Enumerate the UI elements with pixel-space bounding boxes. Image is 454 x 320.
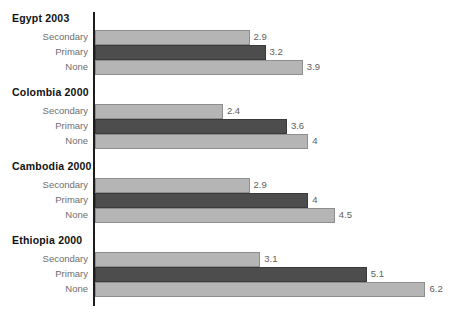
bar-category-label: Secondary	[0, 253, 88, 264]
bar-category-label: None	[0, 61, 88, 72]
bar-category-label: Primary	[0, 194, 88, 205]
bar-row: Secondary2.4	[0, 104, 454, 119]
bar-row: Primary5.1	[0, 267, 454, 282]
bar-row: None4.5	[0, 208, 454, 223]
bar	[95, 60, 303, 75]
bar-value-label: 4	[312, 194, 317, 205]
bar-category-label: Secondary	[0, 105, 88, 116]
bar	[95, 267, 367, 282]
bar-category-label: Secondary	[0, 31, 88, 42]
bar-row: Primary3.6	[0, 119, 454, 134]
bar-category-label: None	[0, 135, 88, 146]
bar-row: Secondary2.9	[0, 178, 454, 193]
bar-row: None3.9	[0, 60, 454, 75]
bar-category-label: None	[0, 209, 88, 220]
bar-group-title: Colombia 2000	[12, 86, 89, 98]
bar-value-label: 4.5	[339, 209, 352, 220]
bar-group-title: Cambodia 2000	[12, 160, 92, 172]
bar	[95, 252, 260, 267]
bar-category-label: Primary	[0, 46, 88, 57]
bar	[95, 45, 266, 60]
bar	[95, 208, 335, 223]
bar	[95, 134, 308, 149]
bar-group: Ethiopia 2000Secondary3.1Primary5.1None6…	[0, 234, 454, 297]
bar-value-label: 2.9	[254, 179, 267, 190]
bar-row: None6.2	[0, 282, 454, 297]
bar-value-label: 2.4	[227, 105, 240, 116]
bar-chart: Egypt 2003Secondary2.9Primary3.2None3.9C…	[0, 0, 454, 320]
bar	[95, 178, 250, 193]
plot-area: Egypt 2003Secondary2.9Primary3.2None3.9C…	[0, 0, 454, 320]
bar-group: Colombia 2000Secondary2.4Primary3.6None4	[0, 86, 454, 149]
bar-category-label: Primary	[0, 268, 88, 279]
bar	[95, 193, 308, 208]
bar	[95, 30, 250, 45]
bar-value-label: 5.1	[371, 268, 384, 279]
bar	[95, 282, 425, 297]
bar	[95, 119, 287, 134]
bar-group-title: Ethiopia 2000	[12, 234, 82, 246]
bar-row: None4	[0, 134, 454, 149]
bar-row: Primary3.2	[0, 45, 454, 60]
bar-value-label: 4	[312, 135, 317, 146]
bar-row: Secondary2.9	[0, 30, 454, 45]
bar-group-title: Egypt 2003	[12, 12, 69, 24]
bar-category-label: Primary	[0, 120, 88, 131]
bar-value-label: 3.2	[270, 46, 283, 57]
bar-value-label: 3.9	[307, 61, 320, 72]
bar-category-label: None	[0, 283, 88, 294]
bar-value-label: 3.1	[264, 253, 277, 264]
bar-row: Primary4	[0, 193, 454, 208]
bar-category-label: Secondary	[0, 179, 88, 190]
bar-group: Cambodia 2000Secondary2.9Primary4None4.5	[0, 160, 454, 223]
bar	[95, 104, 223, 119]
bar-row: Secondary3.1	[0, 252, 454, 267]
bar-value-label: 2.9	[254, 31, 267, 42]
bar-group: Egypt 2003Secondary2.9Primary3.2None3.9	[0, 12, 454, 75]
bar-value-label: 6.2	[429, 283, 442, 294]
bar-value-label: 3.6	[291, 120, 304, 131]
